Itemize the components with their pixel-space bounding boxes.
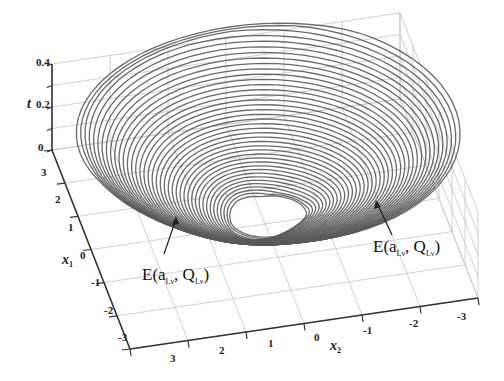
x1-tick: -3 <box>118 331 128 343</box>
t-axis-label: t <box>27 96 32 111</box>
x2-tick: -2 <box>409 317 419 329</box>
x1-tick: -2 <box>104 304 114 316</box>
x1-axis-label: x1 <box>61 252 73 269</box>
x2-tick: 3 <box>170 352 176 364</box>
x2-tick: -1 <box>363 324 372 336</box>
x2-tick: -3 <box>457 310 467 322</box>
x1-tick: 2 <box>55 193 61 205</box>
x1-tick: 3 <box>41 166 47 178</box>
t-tick-0.2: 0.2 <box>36 98 50 110</box>
t-tick-0: 0 <box>38 141 44 153</box>
x1-tick: 0 <box>80 249 86 261</box>
annotation-left-label: E(aLν, QLν) <box>142 265 209 286</box>
funnel-3d-plot: 0.4 0.2 0 t 3 2 1 0 -1 -2 -3 x1 3 2 1 0 … <box>0 0 504 381</box>
x2-tick: 0 <box>314 331 320 343</box>
t-tick-0.4: 0.4 <box>36 56 50 68</box>
x2-tick: 1 <box>268 337 274 349</box>
x1-tick: 1 <box>68 221 74 233</box>
x1-tick: -1 <box>91 276 100 288</box>
x2-tick: 2 <box>219 344 225 356</box>
t-tick-labels: 0.4 0.2 0 <box>36 56 50 153</box>
annotation-right-label: E(aLν, QLν) <box>373 237 440 258</box>
x2-axis-label: x2 <box>329 338 341 355</box>
